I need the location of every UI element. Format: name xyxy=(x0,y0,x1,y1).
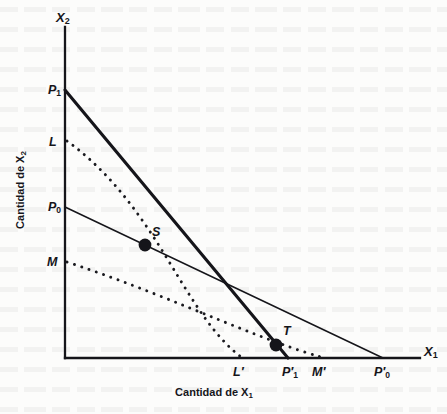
y-axis-variable-subscript: 2 xyxy=(65,16,70,26)
mark-prime: ′ xyxy=(241,365,244,379)
y-axis-mark-m: M xyxy=(47,256,57,269)
y-axis-title-text: Cantidad de X xyxy=(14,156,26,229)
figure-root: X1 X2 Cantidad de X1 Cantidad de X2 P1LP… xyxy=(0,0,447,414)
y-axis-mark-p1: P1 xyxy=(48,84,61,98)
y-axis-title: Cantidad de X2 xyxy=(14,151,28,229)
y-axis-title-subscript: 2 xyxy=(19,151,28,155)
point-marker-s xyxy=(139,239,152,252)
mark-subscript: 0 xyxy=(385,370,390,380)
mark-letter: L xyxy=(49,135,57,149)
mark-subscript: 0 xyxy=(56,205,61,215)
x-axis-variable-label: X1 xyxy=(424,345,438,360)
point-marker-t xyxy=(270,339,283,352)
y-axis-variable-label: X2 xyxy=(56,11,70,26)
mark-subscript: 1 xyxy=(56,88,61,98)
x-axis-title: Cantidad de X1 xyxy=(175,387,253,400)
mark-letter: M xyxy=(47,255,57,269)
indifference-curve-M xyxy=(67,262,321,357)
x-axis-title-text: Cantidad de X xyxy=(175,386,248,398)
x-axis-title-subscript: 1 xyxy=(248,391,252,400)
mark-prime: ′ xyxy=(322,365,325,379)
point-label-s: S xyxy=(152,226,160,239)
mark-letter: L xyxy=(233,365,241,379)
x-axis-mark-lp: L′ xyxy=(233,366,244,379)
mark-subscript: 1 xyxy=(293,370,298,380)
x-axis-mark-p0p: P′0 xyxy=(374,366,390,380)
plot-canvas xyxy=(0,0,447,414)
x-axis-variable-subscript: 1 xyxy=(433,350,438,360)
x-axis-variable-text: X xyxy=(424,344,433,359)
x-axis-mark-p1p: P′1 xyxy=(282,366,298,380)
y-axis-title-wrapper: Cantidad de X2 xyxy=(10,130,32,250)
y-axis-mark-l: L xyxy=(49,136,57,149)
x-axis-mark-mp: M′ xyxy=(312,366,325,379)
y-axis-mark-p0: P0 xyxy=(48,201,61,215)
point-label-t: T xyxy=(283,325,291,338)
budget-line-P1 xyxy=(65,90,288,358)
y-axis-variable-text: X xyxy=(56,10,65,25)
mark-letter: M xyxy=(312,365,322,379)
